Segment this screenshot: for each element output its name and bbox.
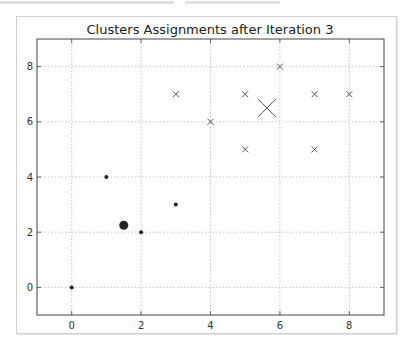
y-tick-label: 4: [27, 172, 33, 183]
data-point-x: [242, 146, 248, 152]
data-point-x: [242, 91, 248, 97]
data-point-dot: [139, 230, 143, 234]
data-point-dot: [174, 203, 178, 207]
gridlines: [37, 39, 384, 315]
centroid-dot: [119, 221, 128, 230]
scatter-plot: Clusters Assignments after Iteration 3 0…: [0, 0, 411, 348]
x-tick-label: 0: [69, 320, 75, 331]
data-point-dot: [70, 285, 74, 289]
data-point-x: [312, 146, 318, 152]
data-point-x: [173, 91, 179, 97]
centroid-x: [258, 99, 276, 117]
x-tick-label: 4: [207, 320, 213, 331]
data-point-x: [312, 91, 318, 97]
chart-title: Clusters Assignments after Iteration 3: [87, 22, 334, 37]
x-tick-label: 6: [277, 320, 283, 331]
y-tick-label: 0: [27, 282, 33, 293]
data-point-dot: [104, 175, 108, 179]
data-points: [70, 64, 353, 290]
y-tick-label: 2: [27, 227, 33, 238]
y-tick-label: 8: [27, 61, 33, 72]
x-tick-label: 2: [138, 320, 144, 331]
x-tick-label: 8: [346, 320, 352, 331]
y-tick-label: 6: [27, 116, 33, 127]
